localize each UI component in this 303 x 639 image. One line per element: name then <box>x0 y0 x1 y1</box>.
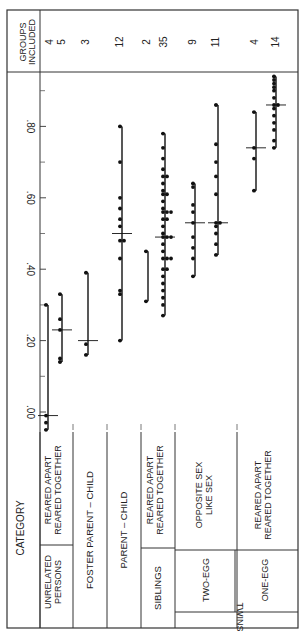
data-point <box>144 299 148 303</box>
data-point <box>214 103 218 107</box>
data-point <box>161 282 165 286</box>
data-point <box>214 224 218 228</box>
data-point <box>272 128 276 132</box>
data-point <box>161 207 165 211</box>
category-foster-parent-child: FOSTER PARENT – CHILD <box>84 471 95 589</box>
groups-included-value: 14 <box>270 36 281 48</box>
data-point <box>118 207 122 211</box>
subcat-reared-together: REARED TOGETHER <box>263 450 273 540</box>
data-point <box>44 303 48 307</box>
data-point <box>272 75 276 79</box>
groups-included-value: 4 <box>249 39 260 45</box>
data-point <box>118 196 122 200</box>
data-point <box>161 182 165 186</box>
data-point <box>272 139 276 143</box>
data-point <box>165 192 169 196</box>
data-point <box>118 160 122 164</box>
groups-included-label: INCLUDED <box>27 19 37 66</box>
data-point <box>58 357 62 361</box>
groups-included-value: 11 <box>210 36 221 47</box>
data-point <box>214 232 218 236</box>
data-point <box>272 85 276 89</box>
data-point <box>161 296 165 300</box>
data-point <box>191 235 195 239</box>
chart-frame <box>7 10 298 628</box>
data-point <box>272 114 276 118</box>
subcat-reared-apart: REARED APART <box>253 460 263 529</box>
data-point <box>169 257 173 261</box>
data-point <box>272 146 276 150</box>
data-point <box>161 232 165 236</box>
groups-included-value: 2 <box>141 39 152 45</box>
groups-included-value: 35 <box>158 36 169 48</box>
data-point <box>191 274 195 278</box>
data-point <box>272 121 276 125</box>
data-point <box>58 360 62 364</box>
data-point <box>214 242 218 246</box>
data-point <box>161 217 165 221</box>
subcat-reared-together: REARED TOGETHER <box>155 445 165 535</box>
groups-included-value: 9 <box>187 39 198 45</box>
data-point <box>272 82 276 86</box>
subcat-opposite-sex: OPPOSITE SEX <box>194 462 204 529</box>
data-point <box>165 210 169 214</box>
data-point <box>252 110 256 114</box>
data-point <box>161 242 165 246</box>
data-point <box>161 257 165 261</box>
data-point <box>118 125 122 129</box>
data-point <box>214 142 218 146</box>
correlation-chart: .00.20.40.60.80GROUPSINCLUDEDCATEGORY453… <box>0 0 303 639</box>
category-label: CATEGORY <box>15 500 26 556</box>
subcat-reared-together: REARED TOGETHER <box>53 445 63 535</box>
data-point <box>84 353 88 357</box>
subcat-reared-apart: REARED APART <box>43 455 53 524</box>
tick-label: .60 <box>25 191 36 205</box>
data-point <box>191 185 195 189</box>
category-two-egg: TWO-EGG <box>201 558 211 602</box>
tick-label: .40 <box>25 262 36 276</box>
data-point <box>272 89 276 93</box>
groups-included-value: 12 <box>114 36 125 48</box>
data-point <box>165 174 169 178</box>
data-point <box>272 107 276 111</box>
data-point <box>84 342 88 346</box>
data-point <box>118 289 122 293</box>
data-point <box>161 132 165 136</box>
category-parent-child: PARENT – CHILD <box>118 492 129 569</box>
data-point <box>165 217 169 221</box>
category-one-egg: ONE-EGG <box>260 559 270 602</box>
category-siblings: SIBLINGS <box>152 566 163 610</box>
tick-label: .00 <box>25 405 36 419</box>
tick-label: .20 <box>25 334 36 348</box>
data-point <box>118 292 122 296</box>
data-point <box>252 157 256 161</box>
data-point <box>161 146 165 150</box>
data-point <box>191 182 195 186</box>
data-point <box>161 303 165 307</box>
data-point <box>58 317 62 321</box>
data-point <box>191 257 195 261</box>
data-point <box>272 78 276 82</box>
data-point <box>252 189 256 193</box>
data-point <box>161 249 165 253</box>
twins-label: TWINS <box>235 603 245 632</box>
data-point <box>161 199 165 203</box>
groups-included-value: 4 <box>44 39 55 45</box>
category-unrelated: PERSONS <box>53 560 63 604</box>
data-point <box>161 174 165 178</box>
groups-included-value: 3 <box>80 39 91 45</box>
data-point <box>161 224 165 228</box>
data-point <box>161 314 165 318</box>
data-point <box>214 174 218 178</box>
data-point <box>118 224 122 228</box>
data-point <box>191 210 195 214</box>
data-point <box>58 292 62 296</box>
data-point <box>165 267 169 271</box>
data-point <box>191 246 195 250</box>
data-point <box>214 192 218 196</box>
data-point <box>272 96 276 100</box>
data-point <box>118 239 122 243</box>
subcat-like-sex: LIKE SEX <box>204 475 214 515</box>
data-point <box>161 274 165 278</box>
data-point <box>161 267 165 271</box>
